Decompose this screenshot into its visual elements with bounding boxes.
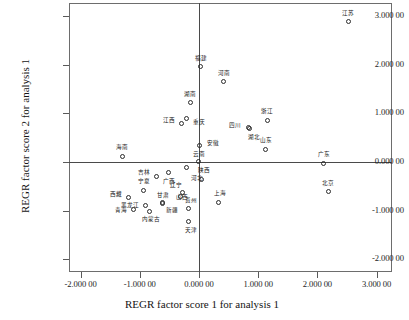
y-tick-mark xyxy=(63,259,69,260)
x-tick-mark xyxy=(199,272,200,278)
data-point-label: 北京 xyxy=(322,180,334,186)
y-tick-mark xyxy=(63,211,69,212)
data-point-marker xyxy=(326,189,331,194)
data-point-label: 浙江 xyxy=(261,108,273,114)
data-point-marker xyxy=(179,121,184,126)
x-tick-mark xyxy=(377,272,378,278)
data-point-label: 吉林 xyxy=(138,169,150,175)
x-tick-mark xyxy=(140,272,141,278)
data-point-marker xyxy=(216,200,221,205)
data-point-label: 湖北 xyxy=(248,134,260,140)
data-point-marker xyxy=(198,64,203,69)
data-point-marker xyxy=(166,170,171,175)
data-point-label: 青海 xyxy=(115,207,127,213)
data-point-label: 山东 xyxy=(260,137,272,143)
data-point-label: 海南 xyxy=(116,144,128,150)
plot-area-frame xyxy=(69,3,392,272)
data-point-label: 甘肃 xyxy=(157,192,169,198)
data-point-marker xyxy=(154,174,159,179)
y-tick-mark xyxy=(63,113,69,114)
data-point-label: 内蒙古 xyxy=(142,216,160,222)
data-point-label: 辽宁 xyxy=(170,182,182,188)
x-tick-mark xyxy=(258,272,259,278)
data-point-marker xyxy=(184,116,189,121)
y-tick-label: -1.000 00 xyxy=(342,206,404,215)
data-point-label: 陕西 xyxy=(198,167,210,173)
data-point-label: 湖南 xyxy=(184,91,196,97)
data-point-label: 宁夏 xyxy=(138,178,150,184)
data-point-label: 江西 xyxy=(163,117,175,123)
y-tick-label: 0.000 00 xyxy=(342,157,404,166)
data-point-label: 江苏 xyxy=(342,10,354,16)
data-point-label: 西藏 xyxy=(110,191,122,197)
x-tick-label: 3.000 00 xyxy=(342,279,409,289)
x-axis-title: REGR factor score 1 for analysis 1 xyxy=(0,298,404,310)
data-point-label: 四川 xyxy=(229,122,241,128)
data-point-marker xyxy=(147,209,152,214)
x-tick-mark xyxy=(317,272,318,278)
y-tick-label: -2.000 00 xyxy=(342,254,404,263)
data-point-marker xyxy=(346,19,351,24)
data-point-label: 广东 xyxy=(318,151,330,157)
data-point-label: 上海 xyxy=(214,190,226,196)
y-tick-label: 2.000 00 xyxy=(342,60,404,69)
data-point-label: 河南 xyxy=(218,70,230,76)
data-point-label: 安徽 xyxy=(207,140,219,146)
x-tick-mark xyxy=(81,272,82,278)
data-point-label: 贵州 xyxy=(185,197,197,203)
data-point-marker xyxy=(120,154,125,159)
data-point-label: 天津 xyxy=(185,227,197,233)
y-tick-label: 1.000 00 xyxy=(342,108,404,117)
data-point-marker xyxy=(196,159,201,164)
data-point-marker xyxy=(265,118,270,123)
y-tick-mark xyxy=(63,162,69,163)
x-zero-axis-line xyxy=(199,3,200,272)
data-point-label: 福建 xyxy=(195,55,207,61)
y-tick-mark xyxy=(63,16,69,17)
y-axis-title: REGR factor score 2 for analysis 1 xyxy=(19,0,31,276)
data-point-label: 重庆 xyxy=(193,119,205,125)
y-tick-mark xyxy=(63,65,69,66)
data-point-label: 新疆 xyxy=(166,207,178,213)
data-point-label: 云南 xyxy=(193,151,205,157)
data-point-marker xyxy=(188,100,193,105)
